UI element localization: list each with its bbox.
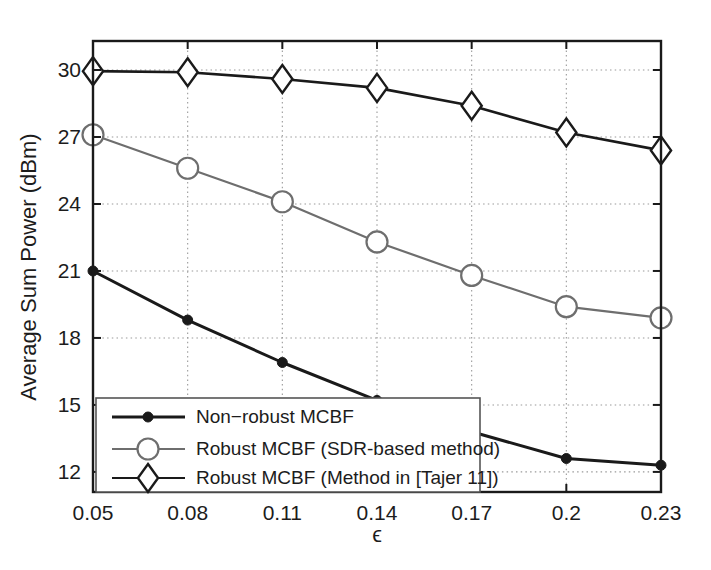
data-point-marker — [367, 231, 388, 252]
x-tick-label: 0.05 — [73, 501, 114, 524]
data-point-marker — [183, 315, 193, 325]
x-tick-label: 0.14 — [357, 501, 398, 524]
y-tick-label: 15 — [58, 393, 81, 416]
data-point-marker — [461, 265, 482, 286]
y-tick-label: 12 — [58, 460, 81, 483]
y-tick-label: 18 — [58, 326, 81, 349]
chart-figure: 30272421181512 0.050.080.110.140.170.20.… — [0, 0, 711, 570]
x-tick-label: 0.17 — [451, 501, 492, 524]
y-tick-label: 24 — [58, 192, 82, 215]
data-point-marker — [277, 358, 287, 368]
x-tick-label: 0.2 — [552, 501, 581, 524]
data-point-marker — [143, 412, 153, 422]
y-tick-label: 21 — [58, 259, 81, 282]
legend-entry-label: Non−robust MCBF — [196, 406, 354, 427]
legend[interactable]: Non−robust MCBFRobust MCBF (SDR-based me… — [96, 398, 500, 492]
data-point-marker — [138, 439, 159, 460]
data-point-marker — [272, 191, 293, 212]
y-axis-label: Average Sum Power (dBm) — [16, 133, 41, 400]
x-tick-label: 0.11 — [263, 501, 302, 524]
chart-canvas: 30272421181512 0.050.080.110.140.170.20.… — [0, 0, 711, 570]
data-point-marker — [561, 454, 571, 464]
x-tick-label: 0.08 — [167, 501, 208, 524]
y-tick-label: 30 — [58, 58, 81, 81]
y-tick-labels: 30272421181512 — [58, 58, 82, 483]
x-tick-labels: 0.050.080.110.140.170.20.23 — [73, 501, 682, 524]
data-point-marker — [556, 296, 577, 317]
legend-entry-label: Robust MCBF (SDR-based method) — [196, 438, 500, 459]
x-tick-label: 0.23 — [641, 501, 682, 524]
y-tick-label: 27 — [58, 125, 81, 148]
data-point-marker — [177, 158, 198, 179]
legend-entry-label: Robust MCBF (Method in [Tajer 11]) — [196, 467, 499, 488]
x-axis-label: ϵ — [372, 522, 382, 547]
